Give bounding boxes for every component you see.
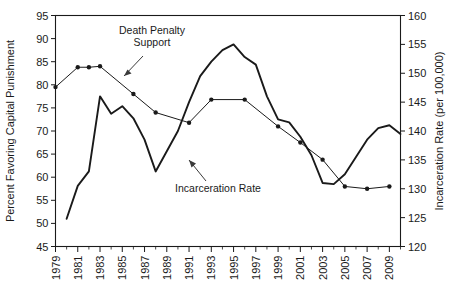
- annotation-death-penalty-support-line2: Support: [134, 36, 171, 48]
- plot-frame: [56, 16, 401, 247]
- series-line-death-penalty-support: [56, 66, 390, 188]
- data-point-death-penalty-support: [298, 140, 302, 144]
- y-axis-tick-label: 55: [36, 194, 48, 206]
- y2-axis-tick-label: 155: [408, 38, 426, 50]
- dual-axis-line-chart: 4550556065707580859095120125130135140145…: [0, 0, 454, 298]
- y-axis-tick-label: 80: [36, 79, 48, 91]
- x-axis-tick-label: 1991: [183, 256, 195, 280]
- y-axis-tick-label: 70: [36, 125, 48, 137]
- x-axis-tick-label: 1993: [205, 256, 217, 280]
- x-axis-tick-label: 2005: [339, 256, 351, 280]
- y2-axis-tick-label: 135: [408, 154, 426, 166]
- data-point-death-penalty-support: [387, 184, 391, 188]
- x-axis-tick-label: 1981: [72, 256, 84, 280]
- annotation-arrowhead-death-penalty-support: [124, 70, 132, 77]
- y-axis-title: Percent Favoring Capital Punishment: [4, 40, 16, 222]
- data-point-death-penalty-support: [209, 97, 213, 101]
- data-point-death-penalty-support: [187, 120, 191, 124]
- data-point-death-penalty-support: [53, 85, 57, 89]
- annotation-incarceration-rate-label: Incarceration Rate: [175, 182, 261, 194]
- annotation-death-penalty-support-line1: Death Penalty: [119, 24, 186, 36]
- data-point-death-penalty-support: [276, 124, 280, 128]
- y-axis-tick-label: 75: [36, 102, 48, 114]
- y2-axis-title: Incarceration Rate (per 100,000): [433, 52, 445, 211]
- y-axis-tick-label: 95: [36, 10, 48, 22]
- data-point-death-penalty-support: [76, 65, 80, 69]
- data-point-death-penalty-support: [131, 92, 135, 96]
- x-axis-tick-label: 2009: [383, 256, 395, 280]
- x-axis-tick-label: 2003: [317, 256, 329, 280]
- x-axis-tick-label: 1987: [139, 256, 151, 280]
- x-axis-tick-label: 1989: [161, 256, 173, 280]
- data-point-death-penalty-support: [87, 65, 91, 69]
- x-axis-tick-label: 1997: [250, 256, 262, 280]
- y-axis-tick-label: 65: [36, 148, 48, 160]
- data-point-death-penalty-support: [320, 157, 324, 161]
- y2-axis-tick-label: 140: [408, 125, 426, 137]
- y2-axis-tick-label: 130: [408, 183, 426, 195]
- data-point-death-penalty-support: [98, 64, 102, 68]
- x-axis-tick-label: 2001: [294, 256, 306, 280]
- y-axis-tick-label: 60: [36, 171, 48, 183]
- x-axis-tick-label: 1983: [94, 256, 106, 280]
- data-point-death-penalty-support: [242, 97, 246, 101]
- x-axis-tick-label: 1999: [272, 256, 284, 280]
- data-point-death-penalty-support: [365, 187, 369, 191]
- y2-axis-tick-label: 125: [408, 212, 426, 224]
- x-axis-tick-label: 2007: [361, 256, 373, 280]
- x-axis-tick-label: 1995: [228, 256, 240, 280]
- x-axis-tick-label: 1979: [50, 256, 62, 280]
- y2-axis-tick-label: 160: [408, 10, 426, 22]
- y2-axis-tick-label: 150: [408, 67, 426, 79]
- data-point-death-penalty-support: [343, 184, 347, 188]
- y-axis-tick-label: 85: [36, 56, 48, 68]
- y-axis-tick-label: 50: [36, 217, 48, 229]
- x-axis-tick-label: 1985: [116, 256, 128, 280]
- y-axis-tick-label: 90: [36, 33, 48, 45]
- data-point-death-penalty-support: [153, 110, 157, 114]
- y2-axis-tick-label: 145: [408, 96, 426, 108]
- y2-axis-tick-label: 120: [408, 241, 426, 253]
- annotation-arrowhead-incarceration-rate: [189, 160, 196, 168]
- y-axis-tick-label: 45: [36, 241, 48, 253]
- chart-figure: 4550556065707580859095120125130135140145…: [0, 0, 454, 298]
